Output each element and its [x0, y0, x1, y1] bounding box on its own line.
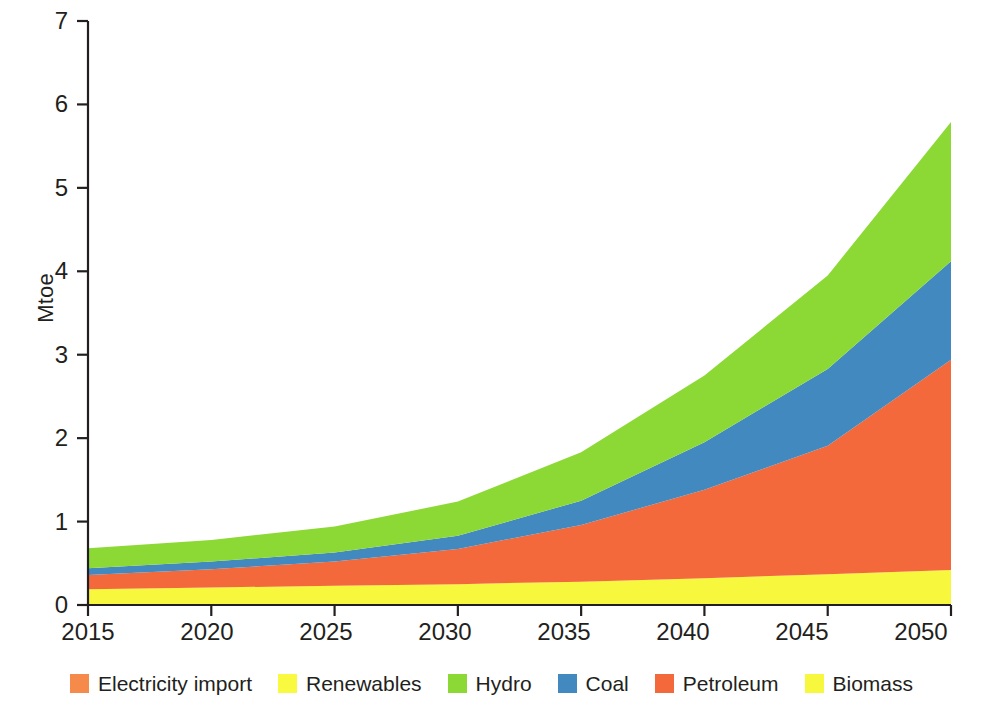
legend-swatch-icon [278, 674, 297, 693]
legend-item-renewables[interactable]: Renewables [278, 673, 422, 694]
legend-item-label: Hydro [476, 673, 532, 694]
legend-item-coal[interactable]: Coal [558, 673, 629, 694]
legend-swatch-icon [805, 674, 824, 693]
legend-item-label: Biomass [833, 673, 914, 694]
legend-item-label: Electricity import [98, 673, 252, 694]
legend-item-biomass[interactable]: Biomass [805, 673, 914, 694]
chart-legend: Electricity importRenewablesHydroCoalPet… [0, 664, 983, 703]
legend-item-hydro[interactable]: Hydro [448, 673, 532, 694]
legend-swatch-icon [70, 674, 89, 693]
legend-item-petroleum[interactable]: Petroleum [655, 673, 779, 694]
chart-root: Mtoe 7 6 5 4 3 2 1 0 2015 2020 2025 2030… [0, 0, 983, 703]
area-series-group [88, 122, 951, 605]
chart-plot-area: Mtoe 7 6 5 4 3 2 1 0 2015 2020 2025 2030… [0, 0, 983, 660]
legend-item-label: Renewables [306, 673, 422, 694]
legend-item-label: Coal [586, 673, 629, 694]
legend-item-electricity-import[interactable]: Electricity import [70, 673, 252, 694]
legend-swatch-icon [448, 674, 467, 693]
legend-item-label: Petroleum [683, 673, 779, 694]
legend-swatch-icon [558, 674, 577, 693]
legend-swatch-icon [655, 674, 674, 693]
stacked-area-svg [0, 0, 983, 660]
